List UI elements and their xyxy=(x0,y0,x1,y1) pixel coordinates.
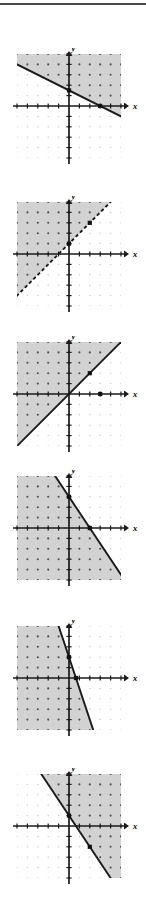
x-axis-label: x xyxy=(132,101,138,111)
point-marker xyxy=(98,392,102,396)
point-marker xyxy=(88,526,92,530)
graph-panel-5: xy xyxy=(0,620,146,740)
x-axis-label: x xyxy=(132,249,138,259)
x-axis-arrow xyxy=(124,103,129,110)
x-axis-arrow xyxy=(124,823,129,830)
header-rule xyxy=(0,3,146,5)
x-axis-label: x xyxy=(132,523,138,533)
point-marker xyxy=(88,221,92,225)
point-marker xyxy=(88,845,92,849)
y-axis-label: y xyxy=(71,768,76,773)
graph-panel-6: xy xyxy=(0,768,146,888)
point-marker xyxy=(67,814,71,818)
point-marker xyxy=(67,655,71,659)
point-marker xyxy=(67,88,71,92)
point-marker xyxy=(88,371,92,375)
y-axis-label: y xyxy=(71,336,76,341)
graph-2: xy xyxy=(0,196,146,316)
x-axis-label: x xyxy=(132,821,138,831)
y-axis-label: y xyxy=(71,620,76,625)
graph-4: xy xyxy=(0,470,146,590)
y-axis-label: y xyxy=(71,470,76,475)
x-axis-arrow xyxy=(124,525,129,532)
x-axis-label: x xyxy=(132,673,138,683)
graph-panel-2: xy xyxy=(0,196,146,316)
x-axis-label: x xyxy=(132,389,138,399)
graph-panel-4: xy xyxy=(0,470,146,590)
point-marker xyxy=(74,676,78,680)
y-axis-label: y xyxy=(71,48,76,53)
x-axis-arrow xyxy=(124,675,129,682)
x-axis-arrow xyxy=(124,391,129,398)
graph-panel-3: xy xyxy=(0,336,146,456)
graph-3: xy xyxy=(0,336,146,456)
point-marker xyxy=(98,104,102,108)
graph-6: xy xyxy=(0,768,146,888)
x-axis-arrow xyxy=(124,251,129,258)
graph-panel-1: xy xyxy=(0,48,146,168)
graph-5: xy xyxy=(0,620,146,740)
point-marker xyxy=(67,242,71,246)
y-axis-label: y xyxy=(71,196,76,201)
point-marker xyxy=(67,495,71,499)
graph-1: xy xyxy=(0,48,146,168)
